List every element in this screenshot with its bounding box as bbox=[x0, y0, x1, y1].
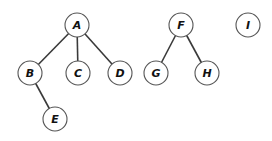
node-label: I bbox=[246, 19, 250, 32]
node-label: C bbox=[74, 67, 82, 80]
tree-diagram: ABCDEFGHI bbox=[0, 0, 272, 141]
node-label: H bbox=[202, 67, 211, 80]
node-i: I bbox=[236, 13, 260, 37]
node-a: A bbox=[65, 13, 89, 37]
node-label: E bbox=[51, 113, 59, 126]
nodes-layer: ABCDEFGHI bbox=[18, 13, 260, 131]
node-label: F bbox=[177, 19, 185, 32]
node-d: D bbox=[108, 61, 132, 85]
node-c: C bbox=[66, 61, 90, 85]
node-e: E bbox=[43, 107, 67, 131]
node-g: G bbox=[144, 61, 168, 85]
node-label: G bbox=[151, 67, 160, 80]
node-label: D bbox=[115, 67, 124, 80]
node-b: B bbox=[18, 61, 42, 85]
node-label: A bbox=[72, 19, 82, 32]
node-h: H bbox=[195, 61, 219, 85]
node-label: B bbox=[26, 67, 34, 80]
node-f: F bbox=[169, 13, 193, 37]
